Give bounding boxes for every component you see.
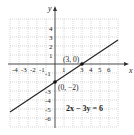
equation-label: 2x − 3y = 6 <box>66 104 103 113</box>
svg-text:5: 5 <box>98 66 102 74</box>
point-label-3-0: (3, 0) <box>63 55 80 64</box>
svg-text:-2: -2 <box>30 66 36 74</box>
svg-text:-3: -3 <box>21 66 27 74</box>
svg-text:-4: -4 <box>12 66 18 74</box>
svg-text:2: 2 <box>49 43 53 51</box>
svg-text:1: 1 <box>49 52 53 60</box>
svg-text:3: 3 <box>80 66 84 74</box>
svg-text:-1: -1 <box>45 70 51 78</box>
y-axis-label: y <box>47 4 52 13</box>
svg-text:3: 3 <box>49 34 53 42</box>
point-x-intercept <box>80 62 84 66</box>
y-axis-arrow-icon <box>53 6 57 11</box>
point-y-intercept <box>53 80 57 84</box>
svg-text:-3: -3 <box>45 88 51 96</box>
svg-text:4: 4 <box>89 66 93 74</box>
svg-text:-6: -6 <box>45 115 51 123</box>
svg-text:-4: -4 <box>45 97 51 105</box>
svg-text:1: 1 <box>62 66 66 74</box>
svg-text:4: 4 <box>49 25 53 33</box>
svg-text:6: 6 <box>107 66 111 74</box>
coordinate-graph: x y -4 -3 -2 -1 1 3 4 5 6 4 3 2 1 -1 -3 … <box>0 0 134 135</box>
svg-text:-5: -5 <box>45 106 51 114</box>
x-axis-label: x <box>128 66 133 75</box>
point-label-0-neg2: (0, −2) <box>58 83 79 92</box>
